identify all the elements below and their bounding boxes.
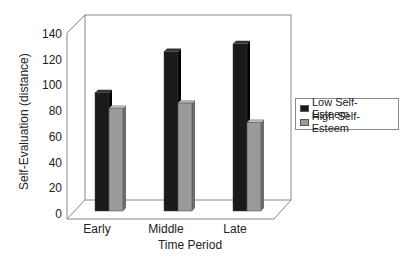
legend-swatch-high xyxy=(300,119,309,126)
legend-item-high: High Self-Esteem xyxy=(300,115,394,129)
legend-label-high: High Self-Esteem xyxy=(312,110,394,134)
bar xyxy=(247,119,264,211)
y-axis-title: Self-Evaluation (distance) xyxy=(17,53,31,190)
x-tick-label: Late xyxy=(205,222,265,236)
y-tick-label: 0 xyxy=(32,207,62,221)
y-tick-label: 100 xyxy=(32,78,62,92)
y-tick-label: 60 xyxy=(32,130,62,144)
bar xyxy=(178,100,195,211)
bar xyxy=(109,105,126,211)
bars-group xyxy=(95,41,264,211)
y-tick-label: 140 xyxy=(32,27,62,41)
x-tick-label: Middle xyxy=(136,222,196,236)
y-tick-label: 40 xyxy=(32,156,62,170)
y-tick-label: 80 xyxy=(32,104,62,118)
y-tick-label: 20 xyxy=(32,181,62,195)
x-tick-label: Early xyxy=(67,222,127,236)
y-tick-label: 120 xyxy=(32,53,62,67)
legend-swatch-low xyxy=(300,105,309,112)
legend: Low Self-Esteem High Self-Esteem xyxy=(295,98,399,130)
x-axis-title: Time Period xyxy=(130,238,250,252)
